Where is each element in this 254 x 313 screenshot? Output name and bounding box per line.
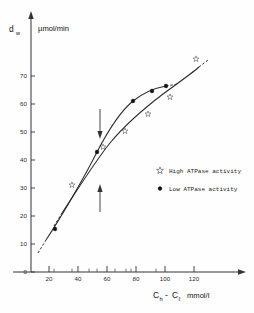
x-tick-label-100: 100 [160, 275, 171, 282]
data-point-circle [150, 89, 154, 93]
x-axis-arrowhead [238, 269, 246, 274]
star-icon [157, 167, 164, 174]
y-tick-label-10: 10 [20, 240, 27, 247]
x-axis-unit: mmol/l [187, 291, 210, 300]
markers-low-atpase [53, 84, 168, 231]
curve-high-atpase-dashed-end [199, 60, 208, 67]
curve-high-atpase [54, 60, 208, 226]
x-ticks [49, 266, 194, 272]
y-axis-unit: µmol/min [38, 24, 69, 33]
data-point-star [69, 182, 75, 188]
data-point-circle [131, 99, 135, 103]
data-point-star [193, 56, 199, 62]
x-tick-label-20: 20 [46, 275, 53, 282]
curve-high-atpase-dashed-start [54, 213, 62, 226]
y-tick-label-70: 70 [20, 72, 27, 79]
y-tick-label-60: 60 [20, 100, 27, 107]
y-axis-title-subscript: w [15, 30, 21, 36]
legend-label-low-atpase: Low ATPase activity [169, 186, 238, 193]
annotation-arrow-up-head [97, 184, 102, 192]
y-tick-label-30: 30 [20, 184, 27, 191]
y-tick-labels: 0 10 20 30 40 50 60 70 [20, 72, 27, 275]
data-point-circle [95, 150, 99, 154]
annotation-arrow-up [97, 184, 102, 212]
data-point-star [145, 111, 151, 117]
legend-label-high-atpase: High ATPase activity [169, 168, 241, 175]
curve-low-atpase [38, 84, 178, 253]
y-ticks [31, 76, 35, 272]
x-axis [13, 269, 246, 274]
curve-low-atpase-line [46, 86, 166, 240]
curve-low-atpase-dashed-start [38, 240, 46, 253]
circle-icon [158, 187, 162, 191]
x-axis-title-dash: - [165, 290, 168, 300]
data-point-star [167, 94, 173, 100]
x-tick-label-40: 40 [75, 275, 82, 282]
x-axis-title-ch-subscript: h [160, 296, 163, 302]
x-tick-labels: 20 40 60 80 100 120 [46, 275, 200, 282]
y-tick-label-20: 20 [20, 212, 27, 219]
x-axis-title-ch: C [153, 290, 159, 300]
x-axis-title-cl: C [172, 290, 178, 300]
y-axis-title-main: d [9, 24, 14, 34]
y-tick-label-40: 40 [20, 156, 27, 163]
legend-entry-high-atpase[interactable]: High ATPase activity [157, 167, 242, 175]
y-axis [28, 11, 33, 272]
legend-entry-low-atpase[interactable]: Low ATPase activity [158, 186, 238, 193]
legend: High ATPase activity Low ATPase activity [157, 167, 242, 193]
x-tick-label-60: 60 [104, 275, 111, 282]
annotation-arrow-down [97, 109, 102, 139]
y-axis-title: d w µmol/min [9, 24, 69, 36]
x-tick-label-80: 80 [133, 275, 140, 282]
y-tick-label-50: 50 [20, 128, 27, 135]
data-point-circle [164, 84, 168, 88]
chart-canvas: 0 10 20 30 40 50 60 70 d w µmol/min [0, 0, 254, 313]
annotation-arrow-down-head [97, 131, 102, 139]
x-axis-title: C h - C ℓ mmol/l [153, 290, 210, 302]
x-tick-label-120: 120 [189, 275, 200, 282]
data-point-circle [53, 227, 57, 231]
y-axis-arrowhead [28, 11, 33, 19]
x-minor-ticks [54, 269, 156, 272]
chart-figure: 0 10 20 30 40 50 60 70 d w µmol/min [0, 0, 254, 313]
x-axis-title-cl-subscript: ℓ [179, 296, 181, 302]
